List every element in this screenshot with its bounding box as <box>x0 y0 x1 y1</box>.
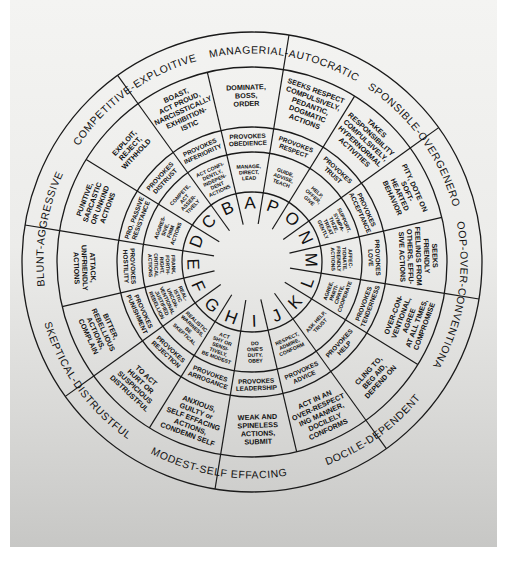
sector-behavior-c: EXPLOIT,REJECT,WITHHOLD <box>108 126 153 172</box>
sector-behavior-f: BITTER,REBELLIOUSACTIONS,COMPLAIN <box>75 303 125 359</box>
sector-letter-h: H <box>222 306 240 328</box>
sector-provokes-i: PROVOKESLEADERSHIP <box>235 377 277 392</box>
sector-letter-p: P <box>264 196 281 218</box>
sector-behavior-e-line: ACTIONS <box>71 252 81 285</box>
sector-behavior-e: ATTACK,UNFRIENDLYACTIONS <box>71 245 98 292</box>
sector-letter-m: M <box>301 252 320 267</box>
sector-behavior-h: ANXIOUS,GUILTY orSELF EFFACINGACTIONS,CO… <box>159 389 228 449</box>
sector-letter-n: N <box>294 228 316 247</box>
sector-letter-m-line: M <box>301 252 320 267</box>
sector-letter-d: D <box>186 232 208 250</box>
sector-behavior-m-line: SIVE ACTIONS <box>397 231 408 282</box>
sector-provokes-k: PROVOKESHELP <box>324 327 359 364</box>
sector-action-e: FRANK,FORTH-RIGHT,CRITICALACTIONS <box>147 252 177 278</box>
sector-provokes-i-line: LEADERSHIP <box>236 384 278 392</box>
sector-letter-l: L <box>297 275 318 291</box>
sector-action-b: ACT CONFI-DENTLY,INDEPEN-DENTACTIONS <box>195 160 235 199</box>
sector-action-a-line: LEAD <box>242 175 257 181</box>
sector-letter-b: B <box>218 197 236 219</box>
sector-provokes-a-line: OBEDIENCE <box>229 139 268 147</box>
sector-provokes-a: PROVOKESOBEDIENCE <box>228 132 267 147</box>
category-label: MODEST-SELF EFFACING <box>149 444 288 480</box>
sector-action-h: ACTSHY ORSENSI-TIVELY,BE MODEST <box>201 327 241 365</box>
sector-provokes-m: PROVOKESLOVE <box>367 239 382 276</box>
sector-letter-f-line: F <box>187 278 209 295</box>
sector-action-k: ASK HELP,TRUST <box>304 309 331 337</box>
sector-action-j: RESPECT,ADMIRE,CONFORM <box>273 330 305 357</box>
sector-action-i: DOONE'SDUTY,OBEY <box>247 340 264 364</box>
sector-provokes-n: PROVOKESACCEPTANCE <box>348 188 379 234</box>
sector-letter-a: A <box>244 193 257 212</box>
sector-letter-l-line: L <box>297 275 318 291</box>
sector-behavior-b: BOAST,ACT PROUD,NARCISSTICALLYEXHIBITION… <box>146 78 220 142</box>
sector-behavior-a: DOMINATE,BOSS,ORDER <box>226 82 267 109</box>
sector-letter-j: J <box>269 305 285 326</box>
sector-behavior-l: OVER-CON-VENTIONAL,AGREEAT ALL TIMES,COM… <box>380 290 437 352</box>
sector-behavior-d: PUNITIVE,SARCASTICOR UNKINDACTIONS <box>73 178 119 229</box>
sector-action-m-line: ACTIONS <box>330 247 337 271</box>
sector-provokes-m-line: LOVE <box>367 249 375 267</box>
sector-provokes-o: PROVOKESTRUST <box>318 155 355 190</box>
sector-letter-i-line: I <box>251 312 256 331</box>
sector-action-m: AFFEC-TIONATE,FRIENDLYACTIONS <box>330 246 354 273</box>
sector-provokes-e: PROVOKESHOSTILITY <box>122 248 137 285</box>
sector-provokes-g: PROVOKESREJECTION <box>150 334 187 370</box>
sector-behavior-g: TO ACTHURT ORSUSPICIOUSDISTRUSTFUL <box>108 355 168 414</box>
sector-behavior-k: CLING TO,BEG AID,DEPEND ON <box>351 352 399 401</box>
sector-provokes-e-line: HOSTILITY <box>122 250 130 284</box>
sector-action-a: MANAGE,DIRECT,LEAD <box>236 163 262 181</box>
sector-letter-e: E <box>183 258 202 270</box>
sector-letter-b-line: B <box>218 197 236 219</box>
sector-letter-i: I <box>251 312 256 331</box>
sector-letter-e-line: E <box>183 258 202 270</box>
sector-letter-p-line: P <box>264 196 281 218</box>
sector-action-e-line: ACTIONS <box>147 254 154 278</box>
sector-letter-h-line: H <box>222 306 240 328</box>
sector-provokes-b: PROVOKESINFERIORITY <box>180 135 223 165</box>
sector-action-o: HELP,OFFER,GIVE <box>300 183 326 209</box>
sector-behavior-i: WEAK ANDSPINELESSACTIONS,SUBMIT <box>237 412 279 447</box>
sector-provokes-j: PROVOKESADVICE <box>283 359 322 387</box>
sector-behavior-o: TAKESRESPONSIBILITYCOMPULSIVELY,HYPERNOR… <box>329 104 401 176</box>
sector-provokes-d: PRO. PASSIVERESISTANCE <box>123 195 152 242</box>
ring-3 <box>57 67 447 457</box>
sector-action-i-line: OBEY <box>248 357 263 364</box>
sector-behavior-n: PITY, DOTE ONSOFT-HEARTEDBEHAVIOR <box>378 162 430 223</box>
sector-behavior-i-line: SUBMIT <box>244 437 272 447</box>
sector-letter-a-line: A <box>244 193 257 212</box>
sector-provokes-l: PROVOKESTENDERNESS <box>352 281 381 328</box>
sector-letter-j-line: J <box>269 305 285 326</box>
sector-action-p: GUIDE,ADVISE,TEACH <box>271 166 297 190</box>
sector-provokes-c: PROVOKESDISTRUST <box>145 160 180 197</box>
sector-letter-f: F <box>187 278 209 295</box>
sector-letter-n-line: N <box>294 228 316 247</box>
interpersonal-circle-diagram: AMANAGE,DIRECT,LEADPROVOKESOBEDIENCEDOMI… <box>0 0 521 573</box>
sector-provokes-h: PROVOKESARROGANCE <box>187 363 232 391</box>
sector-behavior-a-line: ORDER <box>233 99 260 109</box>
sector-behavior-m: SEEKSFRIENDLYFEELINGS FROMOTHERS, EFFU-S… <box>397 226 441 287</box>
sector-letter-d-line: D <box>186 232 208 250</box>
sector-action-d: AGGRES-SIVE,FIRMACTIONS <box>153 215 183 246</box>
